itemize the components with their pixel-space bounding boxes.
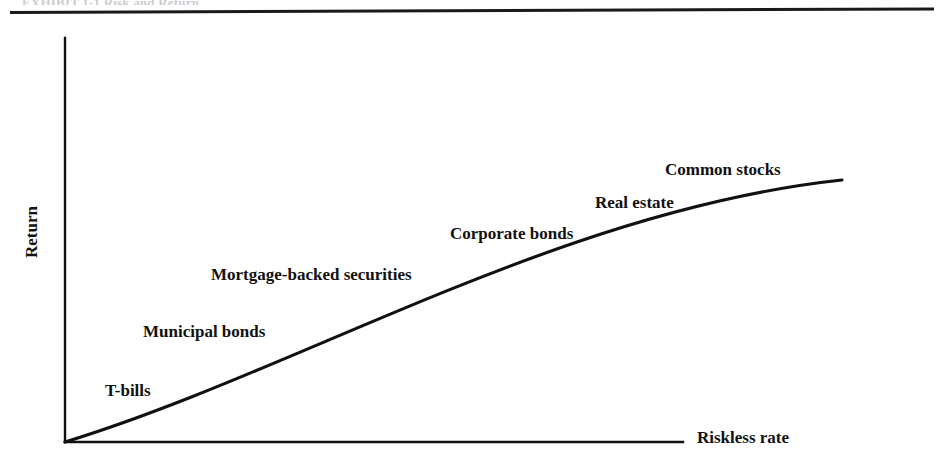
curve-label-t-bills: T-bills: [105, 381, 151, 401]
figure-root: EXHIBIT 1-1 Risk and Return Return Riskl…: [0, 0, 942, 450]
x-axis-label: Riskless rate: [697, 428, 789, 448]
curve-label-mortgage-backed-securities: Mortgage-backed securities: [211, 265, 412, 285]
risk-return-curve: [65, 180, 842, 442]
curve-label-corporate-bonds: Corporate bonds: [450, 224, 573, 244]
y-axis-label: Return: [22, 168, 41, 258]
curve-label-real-estate: Real estate: [595, 193, 674, 213]
curve-label-common-stocks: Common stocks: [665, 160, 781, 180]
curve-label-municipal-bonds: Municipal bonds: [143, 322, 265, 342]
